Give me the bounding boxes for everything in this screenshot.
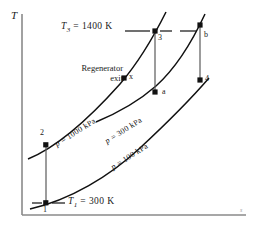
state-label-2: 2: [40, 129, 44, 137]
diagram-canvas: [0, 0, 253, 231]
ts-diagram-figure: T s T3 = 1400 K T1 = 300 K Regenerator e…: [0, 0, 253, 231]
state-label-3: 3: [158, 34, 162, 42]
t1-subscript: 1: [74, 201, 78, 209]
t3-subscript: 3: [67, 26, 71, 34]
temperature-label-t3: T3 = 1400 K: [61, 22, 113, 34]
state-point-markers: [43, 22, 202, 205]
state-label-x: x: [129, 73, 133, 81]
y-axis-label: T: [11, 10, 17, 21]
temperature-label-t1: T1 = 300 K: [68, 197, 114, 209]
state-label-b: b: [204, 31, 208, 39]
t1-value: 300 K: [89, 196, 115, 206]
x-axis-label: s: [240, 207, 242, 213]
state-label-4: 4: [205, 75, 209, 83]
state-label-a: a: [162, 88, 166, 96]
axes: [22, 14, 246, 215]
regenerator-exit-annotation: Regenerator exit: [55, 64, 123, 84]
regenerator-exit-line2: exit: [55, 74, 123, 84]
isobar-1000kpa: [28, 12, 166, 159]
state-label-1: 1: [43, 206, 47, 214]
t3-value: 1400 K: [82, 21, 113, 31]
